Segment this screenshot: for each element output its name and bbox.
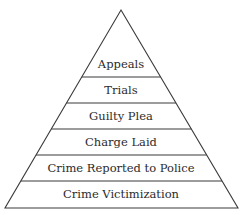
tier-label-trials: Trials — [104, 83, 137, 97]
pyramid-diagram: Appeals Trials Guilty Plea Charge Laid C… — [0, 0, 244, 215]
tier-label-guilty-plea: Guilty Plea — [89, 109, 153, 123]
tier-label-appeals: Appeals — [97, 57, 144, 71]
tier-label-crime-reported: Crime Reported to Police — [47, 161, 194, 175]
tier-label-crime-victimization: Crime Victimization — [63, 187, 180, 201]
tier-label-charge-laid: Charge Laid — [85, 135, 158, 149]
